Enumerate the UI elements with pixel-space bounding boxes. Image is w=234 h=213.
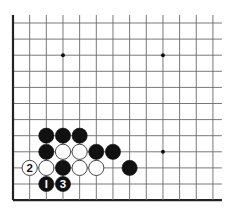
move-number-label: 2 xyxy=(26,162,32,174)
move-number-label: I xyxy=(45,178,48,190)
black-stone xyxy=(55,128,70,143)
black-stone xyxy=(89,144,104,159)
star-point xyxy=(161,53,165,57)
black-stone xyxy=(39,144,54,159)
star-point xyxy=(161,150,165,154)
move-number-label: 3 xyxy=(60,178,66,190)
white-stone xyxy=(72,144,87,159)
go-board: 2I3 xyxy=(0,0,234,213)
white-stone xyxy=(55,144,70,159)
black-stone xyxy=(39,128,54,143)
black-stone-move-3: 3 xyxy=(55,176,70,191)
white-stone-move-2: 2 xyxy=(22,160,37,175)
white-stone xyxy=(39,160,54,175)
black-stone xyxy=(122,160,137,175)
white-stone xyxy=(72,160,87,175)
black-stone xyxy=(105,144,120,159)
star-point xyxy=(61,53,65,57)
black-stone xyxy=(72,128,87,143)
white-stone xyxy=(89,160,104,175)
black-stone xyxy=(55,160,70,175)
black-stone-move-1: I xyxy=(39,176,54,191)
